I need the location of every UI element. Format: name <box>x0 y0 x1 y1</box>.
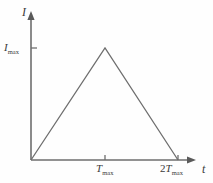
x-tick-label-tmax-subscript: max <box>102 169 114 176</box>
y-axis-arrow-icon <box>27 11 34 20</box>
triangular-pulse-curve <box>31 48 178 160</box>
x-tick-label-2tmax-subscript: max <box>172 169 184 176</box>
x-tick-label-2tmax: 2Tmax <box>160 163 183 174</box>
y-tick-label-imax-subscript: max <box>8 48 20 55</box>
plot-figure: I t Imax Tmax 2Tmax <box>0 0 213 183</box>
x-tick-label-2tmax-base: T <box>166 162 172 174</box>
y-axis-label: I <box>22 6 26 18</box>
x-axis-label: t <box>202 163 205 175</box>
plot-canvas <box>0 0 213 183</box>
x-tick-label-tmax: Tmax <box>96 163 114 174</box>
x-axis-arrow-icon <box>187 157 196 164</box>
y-tick-label-imax: Imax <box>4 42 19 53</box>
